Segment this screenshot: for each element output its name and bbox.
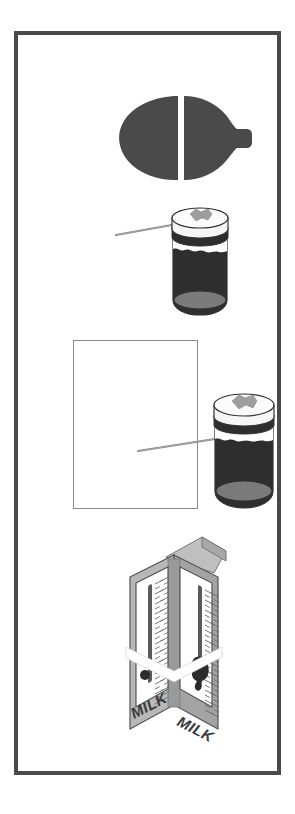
jar-base-ellipse	[174, 291, 226, 309]
outer-border-frame: MILK MILK	[14, 31, 281, 775]
jar-with-pointer-bottom	[204, 391, 284, 513]
carton-center-spine	[168, 559, 180, 707]
bottle-right-half	[184, 96, 252, 180]
milk-carton-with-thermometers: MILK MILK	[118, 529, 238, 759]
split-bottle-silhouette	[116, 93, 256, 183]
illustration-page: MILK MILK	[0, 0, 295, 814]
jar2-base-ellipse	[216, 481, 272, 501]
bottle-left-half	[119, 96, 178, 180]
blank-rectangle-placeholder	[73, 340, 198, 509]
thermometer-left-bulb	[140, 670, 150, 680]
jar-with-pointer-top	[116, 205, 261, 325]
thermometer-left	[136, 567, 169, 708]
